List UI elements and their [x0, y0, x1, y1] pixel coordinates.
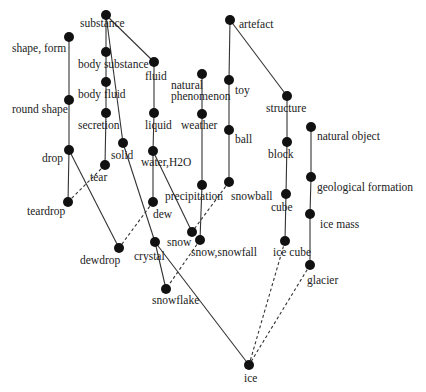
node-label-line: artefact [239, 18, 274, 30]
node-label-line: liquid [145, 119, 172, 132]
edge-ice-cube-to-ice [249, 241, 285, 365]
node-label-liquid: liquid [145, 119, 172, 132]
node-label-line: body substance [78, 58, 149, 71]
node-body-fluid [101, 77, 111, 87]
edge-dew-to-dewdrop [119, 202, 153, 248]
node-label-natural-phenomenon: naturalphenomenon [171, 79, 231, 103]
node-label-glacier: glacier [307, 274, 338, 287]
node-weather [197, 109, 207, 119]
node-precipitation [197, 180, 207, 190]
node-label-line: ice cube [273, 246, 311, 258]
node-tear [100, 160, 110, 170]
node-label-ice-mass: ice mass [320, 218, 360, 230]
node-label-line: shape, form [12, 42, 66, 55]
node-label-natural-object: natural object [317, 130, 381, 143]
node-label-crystal: crystal [134, 250, 165, 263]
node-cube [281, 189, 291, 199]
node-label-drop: drop [42, 152, 63, 165]
node-structure [282, 91, 292, 101]
node-label-line: secretion [78, 119, 120, 131]
node-label-line: natural object [317, 130, 381, 143]
node-label-dewdrop: dewdrop [80, 254, 120, 267]
node-label-line: round shape [12, 103, 68, 116]
node-label-line: structure [266, 102, 306, 114]
node-label-line: phenomenon [171, 90, 231, 103]
node-label-line: fluid [145, 70, 167, 82]
node-ice-mass [305, 209, 315, 219]
node-label-line: drop [42, 152, 63, 165]
node-label-block: block [268, 148, 294, 160]
node-label-ball: ball [235, 133, 252, 145]
node-label-line: teardrop [27, 205, 66, 218]
node-label-line: ice mass [320, 218, 360, 230]
node-snow-snowfall [195, 235, 205, 245]
node-solid [118, 138, 128, 148]
node-ice-cube [280, 236, 290, 246]
node-label-line: weather [181, 119, 218, 131]
node-label-geological-formation: geological formation [317, 181, 413, 194]
node-label-ice: ice [244, 372, 257, 384]
node-label-line: toy [235, 84, 250, 97]
node-shape-form [64, 32, 74, 42]
node-label-precipitation: precipitation [165, 190, 223, 203]
node-label-body-fluid: body fluid [78, 88, 126, 101]
node-glacier [305, 260, 315, 270]
node-dew [148, 197, 158, 207]
node-label-dew: dew [153, 208, 173, 220]
node-label-line: substance [80, 17, 125, 29]
node-label-substance: substance [80, 17, 125, 29]
node-label-line: dewdrop [80, 254, 120, 267]
node-label-line: ball [235, 133, 252, 145]
node-geological-formation [306, 172, 316, 182]
node-label-line: tear [90, 171, 107, 183]
node-label-line: ice [244, 372, 257, 384]
node-label-round-shape: round shape [12, 103, 68, 116]
node-ball [224, 125, 234, 135]
edge-drop-to-dewdrop [69, 150, 119, 248]
node-ice [244, 360, 254, 370]
node-label-structure: structure [266, 102, 306, 114]
node-label-snow: snow [167, 236, 192, 248]
node-label-line: snowball [231, 190, 273, 202]
node-label-cube: cube [271, 201, 293, 213]
node-label-water-h2o: water,H2O [141, 156, 191, 169]
node-label-snow-snowfall: snow,snowfall [191, 246, 257, 259]
node-natural-phenomenon [197, 69, 207, 79]
node-label-toy: toy [235, 84, 250, 97]
node-label-line: snow,snowfall [191, 246, 257, 259]
node-label-line: dew [153, 208, 173, 220]
node-natural-object [306, 122, 316, 132]
node-snowflake [161, 284, 171, 294]
node-label-tear: tear [90, 171, 107, 183]
node-label-weather: weather [181, 119, 218, 131]
node-label-line: body fluid [78, 88, 126, 101]
node-label-line: geological formation [317, 181, 413, 194]
edge-glacier-to-ice [249, 265, 310, 365]
node-snowball [224, 177, 234, 187]
node-liquid [149, 108, 159, 118]
node-label-line: water,H2O [141, 156, 191, 169]
node-label-body-substance: body substance [78, 58, 149, 71]
node-block [282, 137, 292, 147]
node-label-line: crystal [134, 250, 165, 263]
edge-drop-to-teardrop [68, 150, 69, 202]
node-dewdrop [114, 243, 124, 253]
node-label-line: precipitation [165, 190, 223, 203]
node-fluid [149, 57, 159, 67]
node-water-h2o [148, 146, 158, 156]
node-label-fluid: fluid [145, 70, 167, 82]
node-label-ice-cube: ice cube [273, 246, 311, 258]
node-label-line: snowflake [152, 294, 199, 306]
node-drop [64, 145, 74, 155]
node-label-line: snow [167, 236, 192, 248]
node-label-secretion: secretion [78, 119, 120, 131]
node-artefact [225, 15, 235, 25]
node-secretion [101, 108, 111, 118]
node-label-line: glacier [307, 274, 338, 287]
node-label-snowball: snowball [231, 190, 273, 202]
node-crystal [150, 237, 160, 247]
node-toy [224, 75, 234, 85]
node-label-solid: solid [111, 149, 134, 161]
node-label-shape-form: shape, form [12, 42, 66, 55]
node-label-snowflake: snowflake [152, 294, 199, 306]
